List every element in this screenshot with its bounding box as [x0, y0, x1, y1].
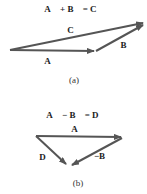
vector-c-label: C⃗	[67, 25, 81, 35]
equation-b: A⃗ − B⃗ = D⃗	[46, 110, 105, 120]
caption-a: (a)	[69, 75, 79, 85]
panel-a: A⃗ + B⃗ = C⃗ C⃗ A⃗ B⃗ (a)	[10, 4, 143, 85]
vector-a-label: A⃗	[44, 56, 58, 66]
equation-a: A⃗ + B⃗ = C⃗	[44, 4, 103, 14]
panel-b: A⃗ − B⃗ = D⃗ A⃗ D⃗ −B⃗ (b)	[36, 110, 122, 188]
vector-neg-b-label: −B⃗	[94, 151, 112, 161]
caption-b: (b)	[73, 178, 84, 188]
vector-a-label-b: A⃗	[71, 124, 85, 134]
vector-d-label: D⃗	[39, 152, 53, 162]
vector-a-arrow-b	[36, 136, 121, 137]
vector-a-arrow	[10, 50, 94, 51]
vector-b-label: B⃗	[120, 40, 133, 50]
vector-diagram: A⃗ + B⃗ = C⃗ C⃗ A⃗ B⃗ (a) A⃗ − B⃗ = D⃗ A…	[0, 0, 147, 194]
